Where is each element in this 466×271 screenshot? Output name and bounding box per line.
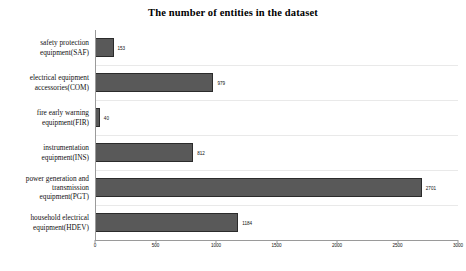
y-axis-line: [95, 30, 96, 240]
bar-row: 2701: [95, 178, 458, 197]
category-label-line: instrumentation: [3, 143, 89, 152]
gridline: [95, 205, 458, 206]
category-label: electrical equipmentaccessories(COM): [3, 73, 89, 91]
category-label: fire early warningequipment(FIR): [3, 108, 89, 126]
category-label-line: equipment(HDEV): [3, 223, 89, 232]
category-label: safety protectionequipment(SAF): [3, 38, 89, 56]
bar-row: 979: [95, 73, 458, 92]
category-axis-labels: safety protectionequipment(SAF)electrica…: [0, 30, 89, 240]
x-axis-tick-label: 0: [94, 243, 97, 248]
bar[interactable]: [95, 143, 193, 162]
category-label: instrumentationequipment(INS): [3, 143, 89, 161]
category-label-line: equipment(FIR): [3, 118, 89, 127]
x-axis-tick-label: 500: [152, 243, 160, 248]
bar-row: 40: [95, 108, 458, 127]
category-label-line: accessories(COM): [3, 83, 89, 92]
chart-container: The number of entities in the dataset sa…: [0, 0, 466, 271]
bar-value-label: 2701: [426, 185, 436, 190]
x-axis-tick-label: 2000: [332, 243, 342, 248]
category-label-line: electrical equipment: [3, 73, 89, 82]
plot-area: 1539794081227011184: [95, 30, 458, 240]
gridline: [95, 170, 458, 171]
x-axis-tick-label: 1500: [271, 243, 281, 248]
category-label-line: fire early warning: [3, 108, 89, 117]
bar-value-label: 40: [104, 115, 109, 120]
bar[interactable]: [95, 38, 114, 57]
gridline: [95, 100, 458, 101]
bar-value-label: 153: [118, 45, 126, 50]
x-axis-tick-label: 3000: [453, 243, 463, 248]
category-label-line: equipment(INS): [3, 153, 89, 162]
bar[interactable]: [95, 178, 422, 197]
bar[interactable]: [95, 73, 213, 92]
bar-row: 1184: [95, 213, 458, 232]
category-label-line: household electrical: [3, 213, 89, 222]
chart-title: The number of entities in the dataset: [0, 7, 466, 18]
category-label: household electricalequipment(HDEV): [3, 213, 89, 231]
category-label-line: equipment(SAF): [3, 48, 89, 57]
category-label: power generation andtransmissionequipmen…: [3, 174, 89, 202]
category-label-line: transmission: [3, 183, 89, 192]
bar-row: 812: [95, 143, 458, 162]
category-label-line: power generation and: [3, 174, 89, 183]
gridline: [95, 65, 458, 66]
bar[interactable]: [95, 213, 238, 232]
x-axis-tick-label: 1000: [211, 243, 221, 248]
x-axis-tick-label: 2500: [392, 243, 402, 248]
category-label-line: equipment(PGT): [3, 192, 89, 201]
category-label-line: safety protection: [3, 38, 89, 47]
bar-value-label: 812: [197, 150, 205, 155]
x-axis-tick-labels: 050010001500200025003000: [95, 243, 458, 257]
bar-row: 153: [95, 38, 458, 57]
gridline: [95, 135, 458, 136]
bar-value-label: 1184: [242, 220, 252, 225]
bar-value-label: 979: [217, 80, 225, 85]
